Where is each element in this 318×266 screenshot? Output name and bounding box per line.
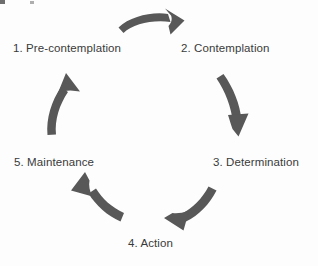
stages-of-change-diagram: 1. Pre-contemplation 2. Contemplation 3.… [0, 0, 318, 266]
arrow-determination-to-action [164, 187, 217, 231]
arrow-precontemplation-to-contemplation [119, 9, 185, 35]
stage-label-action: 4. Action [128, 236, 173, 250]
stage-label-maintenance: 5. Maintenance [14, 155, 94, 169]
stage-label-contemplation: 2. Contemplation [181, 41, 270, 55]
arrow-action-to-maintenance [71, 172, 124, 222]
arrow-contemplation-to-determination [217, 74, 249, 137]
arrow-maintenance-to-precontemplation [47, 73, 80, 135]
cycle-arrows-svg [0, 0, 318, 266]
stage-label-determination: 3. Determination [213, 155, 299, 169]
stage-label-pre-contemplation: 1. Pre-contemplation [13, 41, 121, 55]
